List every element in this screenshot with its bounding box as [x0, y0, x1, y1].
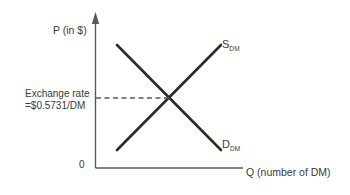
exchange-rate-value: =$0.5731/DM — [25, 100, 90, 112]
exchange-rate-annotation: Exchange rate =$0.5731/DM — [25, 88, 90, 112]
demand-curve-subscript: DM — [230, 145, 241, 152]
origin-label: 0 — [79, 159, 85, 171]
x-axis-label: Q (number of DM) — [246, 166, 331, 178]
exchange-rate-text-line1: Exchange rate — [25, 88, 90, 99]
exchange-rate-supply-demand-diagram: P (in $) Q (number of DM) 0 Exchange rat… — [0, 0, 350, 195]
demand-curve-letter: D — [222, 138, 230, 150]
supply-curve-label: SDM — [222, 38, 240, 51]
supply-curve-subscript: DM — [229, 45, 240, 52]
y-axis-label: P (in $) — [53, 24, 87, 36]
demand-curve-label: DDM — [222, 138, 240, 151]
y-axis — [92, 12, 99, 168]
